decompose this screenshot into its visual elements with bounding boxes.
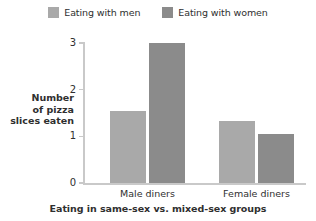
legend-swatch-icon-series-0	[48, 7, 59, 18]
y-axis-title-line-3: slices eaten	[2, 115, 74, 127]
legend-entry-eating-with-women: Eating with women	[162, 7, 267, 18]
y-tick-label-3: 3	[70, 38, 76, 48]
legend-swatch-icon-series-1	[162, 7, 173, 18]
y-tick-mark-2	[79, 89, 84, 91]
bar-chart-figure: Eating with men Eating with women Number…	[0, 0, 316, 221]
y-tick-mark-3	[79, 42, 84, 44]
y-axis-line	[83, 42, 85, 183]
chart-legend: Eating with men Eating with women	[0, 7, 316, 18]
x-axis-title: Eating in same-sex vs. mixed-sex groups	[0, 203, 316, 214]
y-axis-title: Number of pizza slices eaten	[2, 92, 74, 127]
bar-1-0[interactable]	[219, 121, 255, 183]
y-tick-mark-0	[79, 182, 84, 184]
x-category-label-1: Female diners	[223, 188, 290, 199]
bar-0-0[interactable]	[110, 111, 146, 183]
plot-area: 0123	[84, 43, 306, 183]
y-axis-title-line-2: of pizza	[2, 104, 74, 116]
legend-entry-eating-with-men: Eating with men	[48, 7, 140, 18]
legend-label-series-0: Eating with men	[64, 7, 140, 18]
x-category-label-0: Male diners	[120, 188, 175, 199]
legend-label-series-1: Eating with women	[178, 7, 267, 18]
y-tick-label-0: 0	[70, 178, 76, 188]
bar-0-1[interactable]	[149, 43, 185, 183]
y-tick-label-2: 2	[70, 85, 76, 95]
bar-1-1[interactable]	[258, 134, 294, 183]
y-tick-mark-1	[79, 136, 84, 138]
x-axis-line	[83, 183, 306, 185]
y-tick-label-1: 1	[70, 131, 76, 141]
y-axis-title-line-1: Number	[2, 92, 74, 104]
